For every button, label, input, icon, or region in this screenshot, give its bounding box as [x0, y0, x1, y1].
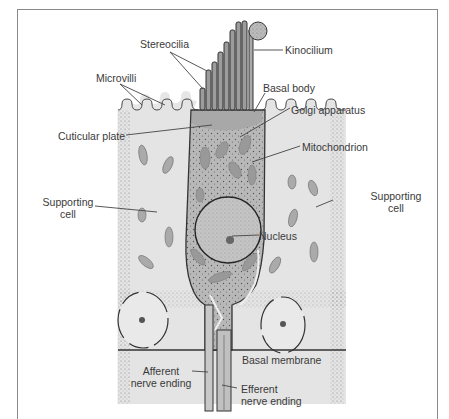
label-efferent-nerve-ending: Efferent nerve ending — [241, 383, 302, 407]
stereocilia — [200, 21, 247, 110]
label-supporting-cell-right: Supporting cell — [366, 190, 426, 214]
label-cuticular-plate: Cuticular plate — [58, 130, 125, 142]
label-microvilli: Microvilli — [96, 72, 136, 84]
label-golgi-apparatus: Golgi apparatus — [291, 104, 365, 116]
label-stereocilia: Stereocilia — [140, 38, 189, 50]
label-mitochondrion: Mitochondrion — [302, 141, 368, 153]
label-supporting-cell-left: Supporting cell — [40, 196, 96, 220]
label-kinocilium: Kinocilium — [285, 44, 333, 56]
label-afferent-nerve-ending: Afferent nerve ending — [126, 365, 196, 389]
kinocilium — [249, 22, 267, 110]
label-basal-membrane: Basal membrane — [242, 354, 321, 366]
label-nucleus: Nucleus — [259, 230, 297, 242]
label-basal-body: Basal body — [263, 82, 315, 94]
